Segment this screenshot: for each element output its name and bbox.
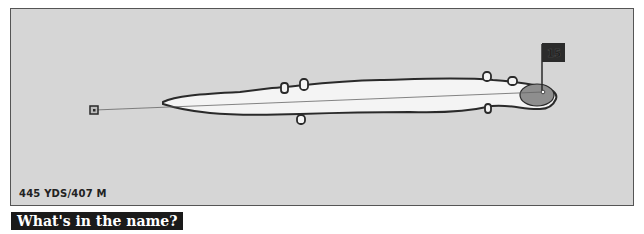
fairway bbox=[163, 78, 556, 115]
yardage-label: 445 YDS/407 M bbox=[19, 188, 107, 199]
tee-marker-icon bbox=[90, 106, 98, 114]
hole-number: 15 bbox=[547, 48, 561, 59]
section-heading: What's in the name? bbox=[11, 212, 183, 230]
green-icon bbox=[520, 84, 554, 106]
